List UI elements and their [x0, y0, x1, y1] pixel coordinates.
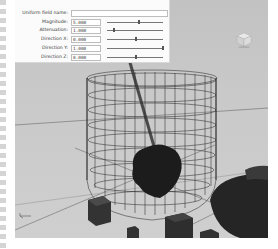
direction-y-slider-thumb[interactable] [162, 46, 164, 50]
axis-indicator-icon [19, 213, 33, 219]
magnitude-row: Magnitude: 5.000 [15, 18, 170, 26]
direction-y-row: Direction Y: 1.000 [15, 44, 170, 52]
direction-z-slider[interactable] [107, 57, 163, 58]
view-cube-icon[interactable] [236, 32, 252, 48]
magnitude-slider[interactable] [107, 22, 163, 23]
magnitude-label: Magnitude: [42, 18, 68, 26]
dark-bowl-shape [210, 172, 268, 238]
direction-y-input[interactable]: 1.000 [71, 45, 101, 52]
field-name-input[interactable] [71, 10, 168, 17]
magnitude-input[interactable]: 5.000 [71, 19, 101, 26]
direction-z-row: Direction Z: 0.000 [15, 53, 170, 61]
uniform-field-panel: Uniform field name: Magnitude: 5.000 Att… [15, 0, 170, 63]
direction-y-slider[interactable] [107, 48, 163, 49]
toolbar-edge [0, 0, 6, 249]
field-name-label: Uniform field name: [22, 9, 68, 17]
direction-x-label: Direction X: [41, 35, 68, 43]
magnitude-slider-thumb[interactable] [138, 20, 140, 24]
direction-z-input[interactable]: 0.000 [71, 54, 101, 61]
field-name-row: Uniform field name: [15, 9, 170, 17]
direction-x-input[interactable]: 0.000 [71, 36, 101, 43]
small-box-far [127, 226, 139, 238]
direction-x-row: Direction X: 0.000 [15, 35, 170, 43]
attenuation-row: Attenuation: 1.000 [15, 26, 170, 34]
app-window: Uniform field name: Magnitude: 5.000 Att… [0, 0, 278, 249]
direction-y-label: Direction Y: [42, 44, 68, 52]
small-box-center [165, 213, 193, 238]
dark-blob-mesh [132, 144, 181, 198]
small-box-left [88, 196, 111, 226]
attenuation-slider[interactable] [107, 30, 163, 31]
attenuation-label: Attenuation: [40, 26, 68, 34]
direction-x-slider-thumb[interactable] [135, 37, 137, 41]
direction-z-label: Direction Z: [41, 53, 68, 61]
attenuation-slider-thumb[interactable] [113, 28, 115, 32]
direction-z-slider-thumb[interactable] [135, 55, 137, 59]
small-box-right [200, 229, 219, 238]
wireframe-cylinder-container [87, 70, 217, 220]
attenuation-input[interactable]: 1.000 [71, 27, 101, 34]
3d-viewport[interactable]: Uniform field name: Magnitude: 5.000 Att… [15, 0, 268, 238]
direction-x-slider[interactable] [107, 39, 163, 40]
